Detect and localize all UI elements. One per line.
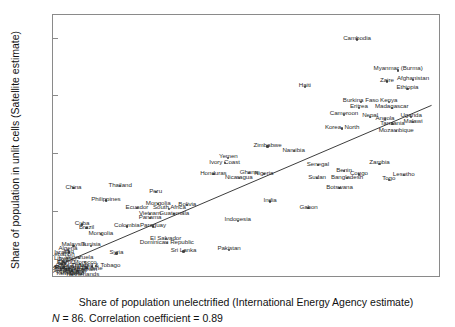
data-point-label: China — [66, 182, 82, 189]
data-point-label: Zambia — [369, 158, 389, 165]
data-point-label: Sri Lanka — [171, 246, 197, 253]
y-tick-mark — [53, 38, 58, 39]
x-tick-mark — [284, 276, 285, 277]
data-point-label: Guatemala — [159, 208, 189, 215]
figure-caption: N = 86. Correlation coefficient = 0.89 — [52, 312, 223, 325]
data-point-label: Thailand — [108, 180, 131, 187]
data-point-label: Madagascar — [375, 102, 409, 109]
data-point-label: Sudan — [308, 172, 326, 179]
data-point-label: Ethiopia — [396, 83, 418, 90]
data-point-label: Syria — [109, 248, 123, 255]
plot-area: CambodiaMyanmar (Burma)ZaireAfghanistanE… — [52, 14, 440, 277]
x-tick-mark — [433, 276, 434, 277]
data-point-label: Malawi — [404, 116, 423, 123]
data-point-label: Zimbabwe — [253, 140, 281, 147]
data-point-label: Indonesia — [224, 215, 250, 222]
data-point-label: Paraguay — [140, 221, 166, 228]
data-point-label: Gabon — [299, 202, 317, 209]
x-tick-mark — [60, 276, 61, 277]
data-point-label: Afghanistan — [397, 74, 429, 81]
regression-line — [53, 15, 439, 276]
caption-n-symbol: N — [52, 312, 60, 324]
data-point-label: Haiti — [299, 81, 311, 88]
data-point-label: Peru — [149, 186, 162, 193]
data-point-label: Mongolia — [88, 228, 113, 235]
x-tick-mark — [209, 276, 210, 277]
caption-text: = 86. Correlation coefficient = 0.89 — [60, 312, 223, 324]
data-point-label: Tunisia — [81, 240, 100, 247]
data-point-label: Cambodia — [343, 33, 371, 40]
data-point-label: Myanmar (Burma) — [374, 64, 423, 71]
data-point-label: Colombia — [114, 221, 140, 228]
data-point-label: Ivory Coast — [209, 157, 240, 164]
data-point-label: Korea, North — [325, 122, 359, 129]
data-point-label: Ukraine — [82, 264, 103, 271]
data-point-label: Mozambique — [379, 125, 414, 132]
data-point-label: Lesotho — [393, 170, 415, 177]
y-tick-mark — [53, 95, 58, 96]
x-tick-mark — [135, 276, 136, 277]
y-axis-title: Share of population in unlit cells (Sate… — [8, 17, 22, 283]
y-tick-mark — [53, 269, 58, 270]
data-point-label: Pakistan — [217, 244, 240, 251]
data-point-label: Zaire — [380, 75, 394, 82]
data-point-label: Cameroon — [330, 108, 359, 115]
y-tick-mark — [53, 211, 58, 212]
data-point-label: Nigeria — [254, 168, 273, 175]
data-point-label: Nicaragua — [225, 172, 253, 179]
data-point-label: Botswana — [326, 182, 353, 189]
x-tick-mark — [358, 276, 359, 277]
data-point-label: India — [264, 196, 277, 203]
data-point-label: Senegal — [307, 159, 329, 166]
data-point-label: Panama — [139, 212, 162, 219]
data-point-label: Israel — [54, 247, 69, 254]
scatter-plot-figure: Share of population in unlit cells (Sate… — [0, 0, 455, 327]
data-point-label: Philippines — [91, 195, 120, 202]
data-point-label: Namibia — [282, 145, 304, 152]
data-point-label: Togo — [382, 174, 395, 181]
data-point-label: Dominican Republic — [140, 238, 194, 245]
data-point-label: Bangladesh — [331, 172, 363, 179]
x-axis-title: Share of population unelectrified (Inter… — [52, 296, 440, 309]
data-point-label: Honduras — [200, 168, 226, 175]
y-tick-mark — [53, 153, 58, 154]
